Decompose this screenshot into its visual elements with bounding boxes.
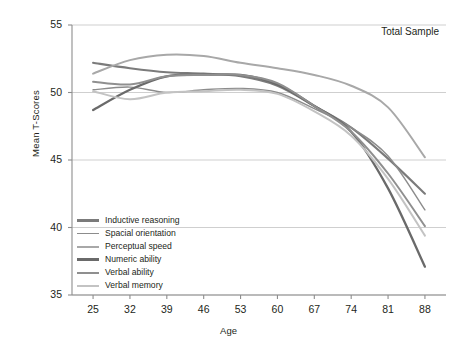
legend-swatch-inductive-reasoning [77, 219, 99, 221]
legend-label-spacial-orientation: Spacial orientation [105, 227, 176, 240]
x-tick-label-74: 74 [336, 303, 366, 315]
y-tick-label-55: 55 [36, 18, 62, 30]
x-tick-label-53: 53 [226, 303, 256, 315]
x-tick-label-60: 60 [262, 303, 292, 315]
x-tick-label-67: 67 [299, 303, 329, 315]
line-chart: Mean T-Scores 5550454035 253239465360677… [0, 0, 457, 350]
legend-swatch-numeric-ability [77, 258, 99, 260]
legend-label-verbal-memory: Verbal memory [105, 279, 163, 292]
y-tick-label-40: 40 [36, 221, 62, 233]
legend-label-perceptual-speed: Perceptual speed [105, 240, 172, 253]
y-tick-label-35: 35 [36, 288, 62, 300]
y-tick-label-45: 45 [36, 153, 62, 165]
x-axis-title: Age [0, 325, 457, 336]
x-tick-label-39: 39 [152, 303, 182, 315]
legend-swatch-spacial-orientation [77, 233, 99, 234]
legend-item-verbal-ability: Verbal ability [77, 266, 180, 279]
x-tick-label-32: 32 [115, 303, 145, 315]
legend-label-numeric-ability: Numeric ability [105, 253, 161, 266]
x-tick-label-25: 25 [78, 303, 108, 315]
legend-item-spacial-orientation: Spacial orientation [77, 227, 180, 240]
legend-swatch-verbal-memory [77, 285, 99, 287]
legend-swatch-verbal-ability [77, 272, 99, 274]
x-tick-label-88: 88 [410, 303, 440, 315]
x-tick-label-81: 81 [373, 303, 403, 315]
legend-label-verbal-ability: Verbal ability [105, 266, 154, 279]
x-tick-label-46: 46 [189, 303, 219, 315]
legend-item-inductive-reasoning: Inductive reasoning [77, 214, 180, 227]
y-tick-label-50: 50 [36, 86, 62, 98]
legend-item-verbal-memory: Verbal memory [77, 279, 180, 292]
legend-swatch-perceptual-speed [77, 246, 99, 248]
legend-item-numeric-ability: Numeric ability [77, 253, 180, 266]
chart-legend: Inductive reasoningSpacial orientationPe… [77, 214, 180, 292]
legend-item-perceptual-speed: Perceptual speed [77, 240, 180, 253]
legend-label-inductive-reasoning: Inductive reasoning [105, 214, 180, 227]
plot-area [0, 0, 457, 350]
total-sample-annotation: Total Sample [381, 26, 439, 37]
